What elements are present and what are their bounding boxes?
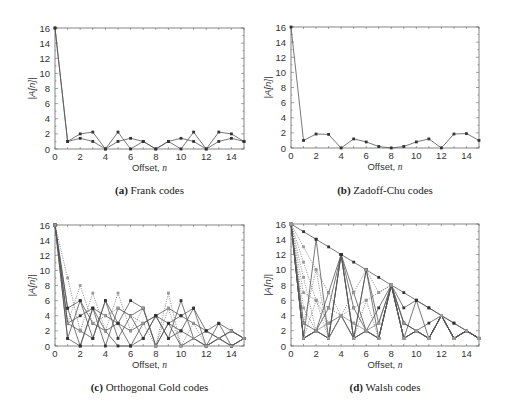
data-point-marker bbox=[390, 284, 393, 287]
y-tick-label: 10 bbox=[275, 264, 286, 275]
data-point-marker bbox=[315, 299, 318, 302]
y-tick-label: 8 bbox=[281, 280, 286, 291]
y-tick-label: 12 bbox=[275, 249, 286, 260]
data-point-marker bbox=[365, 329, 368, 332]
y-axis-label: |A[n]| bbox=[262, 274, 273, 296]
data-point-marker bbox=[427, 337, 430, 340]
chart-panel-walsh: 024681012140246810121416Offset, n|A[n]| bbox=[0, 0, 511, 416]
data-point-marker bbox=[402, 306, 405, 309]
data-point-marker bbox=[352, 337, 355, 340]
data-point-marker bbox=[327, 245, 330, 248]
data-point-marker bbox=[427, 306, 430, 309]
data-point-marker bbox=[453, 337, 456, 340]
data-point-marker bbox=[352, 322, 355, 325]
data-point-marker bbox=[302, 261, 305, 264]
data-point-marker bbox=[465, 329, 468, 332]
data-point-marker bbox=[302, 230, 305, 233]
data-point-marker bbox=[402, 322, 405, 325]
x-tick-label: 14 bbox=[461, 348, 472, 359]
data-point-marker bbox=[352, 306, 355, 309]
data-point-marker bbox=[327, 337, 330, 340]
y-tick-label: 4 bbox=[281, 310, 286, 321]
data-point-marker bbox=[315, 268, 318, 271]
data-point-marker bbox=[340, 253, 343, 256]
x-tick-label: 4 bbox=[338, 348, 343, 359]
data-point-marker bbox=[327, 306, 330, 309]
data-point-marker bbox=[453, 322, 456, 325]
data-point-marker bbox=[365, 299, 368, 302]
data-point-marker bbox=[402, 337, 405, 340]
data-point-marker bbox=[352, 261, 355, 264]
chart-walsh: 024681012140246810121416Offset, n|A[n]| bbox=[0, 0, 511, 416]
data-point-marker bbox=[440, 314, 443, 317]
data-point-marker bbox=[315, 238, 318, 241]
data-point-marker bbox=[377, 306, 380, 309]
plot-frame bbox=[291, 224, 479, 346]
data-point-marker bbox=[327, 322, 330, 325]
data-point-marker bbox=[302, 322, 305, 325]
data-point-marker bbox=[377, 337, 380, 340]
data-point-marker bbox=[365, 268, 368, 271]
caption-text: Walsh codes bbox=[365, 381, 420, 393]
data-point-marker bbox=[415, 299, 418, 302]
data-point-marker bbox=[290, 223, 293, 226]
data-point-marker bbox=[302, 337, 305, 340]
data-point-marker bbox=[302, 291, 305, 294]
y-tick-label: 14 bbox=[275, 234, 286, 245]
x-tick-label: 0 bbox=[288, 348, 293, 359]
data-point-marker bbox=[302, 276, 305, 279]
data-point-marker bbox=[315, 329, 318, 332]
data-point-marker bbox=[327, 291, 330, 294]
caption-walsh: (d) Walsh codes bbox=[291, 381, 479, 393]
y-tick-label: 16 bbox=[275, 219, 286, 230]
data-point-marker bbox=[377, 322, 380, 325]
x-tick-label: 8 bbox=[389, 348, 394, 359]
x-tick-label: 6 bbox=[364, 348, 369, 359]
y-tick-label: 0 bbox=[281, 341, 286, 352]
data-point-marker bbox=[478, 337, 481, 340]
x-tick-label: 2 bbox=[313, 348, 318, 359]
data-point-marker bbox=[415, 329, 418, 332]
data-point-marker bbox=[302, 306, 305, 309]
data-point-marker bbox=[302, 245, 305, 248]
data-point-marker bbox=[352, 291, 355, 294]
data-point-marker bbox=[340, 314, 343, 317]
data-point-marker bbox=[402, 291, 405, 294]
y-tick-label: 6 bbox=[281, 295, 286, 306]
data-point-marker bbox=[427, 322, 430, 325]
data-point-marker bbox=[377, 291, 380, 294]
x-tick-label: 10 bbox=[411, 348, 422, 359]
data-point-marker bbox=[377, 276, 380, 279]
x-axis-label: Offset, n bbox=[367, 359, 402, 370]
y-tick-label: 2 bbox=[281, 325, 286, 336]
x-tick-label: 12 bbox=[436, 348, 447, 359]
caption-label: (d) bbox=[349, 381, 362, 393]
